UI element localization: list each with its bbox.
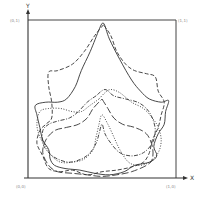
y-axis-arrow-icon xyxy=(26,9,30,14)
x-axis-label: X xyxy=(190,174,194,181)
y-axis-label: Y xyxy=(25,2,30,9)
corner-label-top-right: (1,1) xyxy=(178,18,188,23)
x-axis-arrow-icon xyxy=(183,176,188,180)
corner-label-top-left: (0,1) xyxy=(10,18,20,23)
leaf-outline-diagram: Y X (0,1) (1,1) (0,0) (1,0) xyxy=(0,0,204,200)
leaf-outlines-group xyxy=(35,23,169,176)
corner-label-bottom-left: (0,0) xyxy=(16,184,26,189)
corner-label-bottom-right: (1,0) xyxy=(166,184,176,189)
leaf-outline-dashed xyxy=(37,25,164,175)
leaf-outline-dotted xyxy=(37,90,161,166)
